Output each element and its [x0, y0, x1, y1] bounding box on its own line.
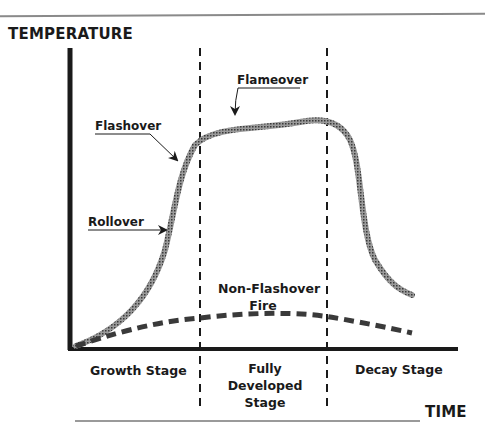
- rollover-label: Rollover: [88, 215, 144, 229]
- decay-stage-label: Decay Stage: [355, 361, 443, 378]
- flameover-arrow: [235, 88, 300, 114]
- non-flashover-label: Non-Flashover Fire: [218, 280, 308, 314]
- y-axis-label: TEMPERATURE: [8, 25, 133, 43]
- fully-developed-stage-label: Fully Developed Stage: [220, 360, 310, 411]
- flashover-arrow: [95, 134, 177, 160]
- x-axis-label: TIME: [425, 403, 467, 421]
- flashover-label: Flashover: [95, 119, 161, 133]
- flameover-label: Flameover: [237, 73, 308, 87]
- growth-stage-label: Growth Stage: [90, 362, 187, 379]
